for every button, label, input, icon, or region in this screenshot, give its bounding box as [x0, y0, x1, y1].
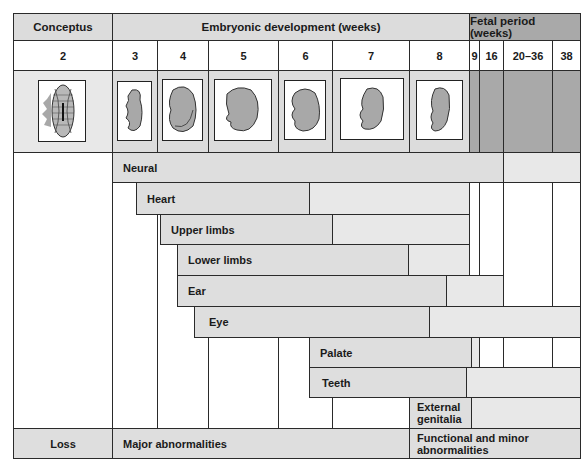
embryonic-header: Embryonic development (weeks): [112, 13, 470, 41]
organ-label: Upper limbs: [171, 224, 235, 236]
week-8: 8: [409, 40, 470, 71]
week-label: 4: [180, 50, 186, 62]
embryo-week8-icon: [416, 80, 463, 140]
organ-label: Ear: [188, 285, 206, 297]
minor-label-line1: Functional and minor: [417, 432, 529, 444]
week-label: 9: [471, 50, 477, 62]
gridline: [552, 337, 553, 367]
organ-label: Palate: [320, 347, 352, 359]
gridline: [552, 182, 553, 306]
gridline: [479, 182, 480, 275]
embryo-week5-icon: [214, 79, 272, 141]
image-cell-3: [112, 70, 158, 153]
organ-bar-eye: Eye: [194, 306, 430, 338]
gridline: [157, 182, 158, 429]
major-abnormalities-label: Major abnormalities: [123, 438, 227, 450]
image-cell-16: [479, 70, 504, 153]
organ-bar-palate-minor: [471, 337, 480, 368]
image-cell-2: [13, 70, 113, 153]
organ-bar-external-genitalia: Externalgenitalia: [409, 397, 472, 429]
organ-bar-ear-minor: [446, 275, 504, 307]
week-label: 20–36: [513, 50, 544, 62]
loss-cell: Loss: [13, 428, 113, 459]
organ-label-line1: External: [417, 401, 462, 413]
embryo-week3-icon: [117, 81, 152, 141]
week-label: 2: [60, 50, 66, 62]
week-label: 16: [485, 50, 497, 62]
organ-bar-neural-minor: [503, 152, 581, 183]
major-abnormalities-cell: Major abnormalities: [112, 428, 410, 459]
week-16: 16: [479, 40, 504, 71]
image-cell-38: [552, 70, 581, 153]
week-20-36: 20–36: [503, 40, 553, 71]
organ-label: Lower limbs: [188, 254, 252, 266]
conceptus-icon: [38, 80, 86, 142]
gridline: [278, 337, 279, 429]
organ-bar-ear: Ear: [177, 275, 447, 307]
image-cell-5: [208, 70, 279, 153]
minor-abnormalities-label: Functional and minorabnormalities: [417, 432, 529, 456]
week-5: 5: [208, 40, 279, 71]
week-7: 7: [332, 40, 410, 71]
week-3: 3: [112, 40, 158, 71]
organ-bar-teeth-minor: [466, 367, 581, 398]
week-label: 8: [436, 50, 442, 62]
week-label: 7: [368, 50, 374, 62]
organ-bar-palate: Palate: [309, 337, 472, 368]
organ-label-line2: genitalia: [417, 413, 462, 425]
minor-abnormalities-cell: Functional and minorabnormalities: [409, 428, 581, 459]
embryonic-label: Embryonic development (weeks): [202, 21, 381, 33]
organ-label: Neural: [123, 162, 157, 174]
organ-bar-upper-limbs: Upper limbs: [160, 214, 333, 245]
organ-bar-heart-minor: [309, 182, 470, 215]
week-4: 4: [157, 40, 209, 71]
gridline: [112, 152, 113, 429]
week-label: 3: [132, 50, 138, 62]
organ-label: Teeth: [322, 377, 351, 389]
embryo-week4-icon: [162, 79, 203, 141]
fetal-label: Fetal period (weeks): [470, 15, 580, 39]
embryo-week6-icon: [284, 80, 326, 140]
organ-bar-lower-limbs-minor: [408, 244, 470, 276]
week-6: 6: [278, 40, 333, 71]
week-label: 38: [560, 50, 572, 62]
organ-bar-external-genitalia-minor: [471, 397, 581, 429]
week-label: 5: [240, 50, 246, 62]
fetal-header: Fetal period (weeks): [469, 13, 581, 41]
organ-bar-eye-minor: [429, 306, 581, 338]
image-cell-6: [278, 70, 333, 153]
image-cell-4: [157, 70, 209, 153]
conceptus-header: Conceptus: [13, 13, 113, 41]
gridline: [503, 337, 504, 367]
conceptus-label: Conceptus: [33, 21, 92, 33]
organ-bar-upper-limbs-minor: [332, 214, 470, 245]
organ-bar-teeth: Teeth: [309, 367, 467, 398]
organ-label: Eye: [209, 316, 229, 328]
minor-label-line2: abnormalities: [417, 444, 529, 456]
image-cell-7: [332, 70, 410, 153]
week-label: 6: [302, 50, 308, 62]
embryo-week7-icon: [340, 78, 404, 140]
week-2: 2: [13, 40, 113, 71]
organ-label: Externalgenitalia: [417, 401, 462, 425]
image-cell-8: [409, 70, 470, 153]
organ-bar-neural: Neural: [112, 152, 504, 183]
gridline: [332, 397, 333, 429]
organ-label: Heart: [147, 193, 175, 205]
week-38: 38: [552, 40, 581, 71]
organ-bar-lower-limbs: Lower limbs: [177, 244, 409, 276]
organ-bar-heart: Heart: [136, 182, 310, 215]
image-cell-20-36: [503, 70, 553, 153]
loss-label: Loss: [50, 438, 76, 450]
